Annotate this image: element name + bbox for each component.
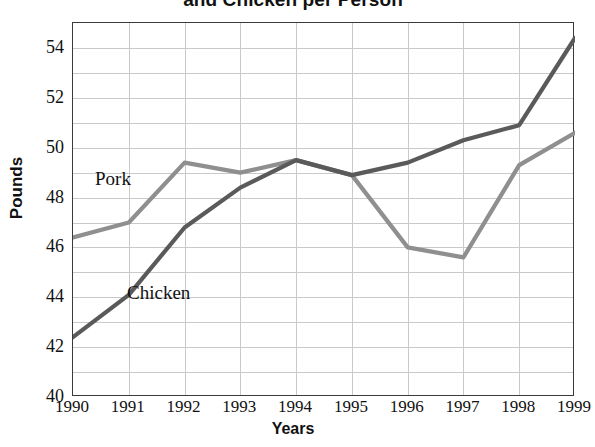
series-annotation-chicken: Chicken <box>127 282 190 304</box>
x-axis-tick-label: 1993 <box>209 398 269 415</box>
x-axis-tick-label: 1997 <box>432 398 492 415</box>
x-axis-tick-label: 1996 <box>377 398 437 415</box>
x-axis-tick-label: 1990 <box>42 398 102 415</box>
series-annotation-pork: Pork <box>95 168 131 190</box>
x-axis-tick-label: 1991 <box>98 398 158 415</box>
x-axis-tick-label: 1998 <box>488 398 548 415</box>
x-axis-tick-label: 1992 <box>154 398 214 415</box>
x-axis-tick-label: 1994 <box>265 398 325 415</box>
x-axis-tick-label: 1999 <box>544 398 595 415</box>
x-axis-tick-label: 1995 <box>321 398 381 415</box>
